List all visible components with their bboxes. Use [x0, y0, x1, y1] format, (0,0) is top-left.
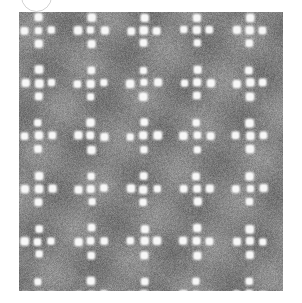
micrograph-image [19, 12, 283, 291]
micrograph-canvas [19, 12, 283, 291]
partial-circle-outline-icon [21, 0, 52, 12]
page-root [0, 0, 302, 303]
